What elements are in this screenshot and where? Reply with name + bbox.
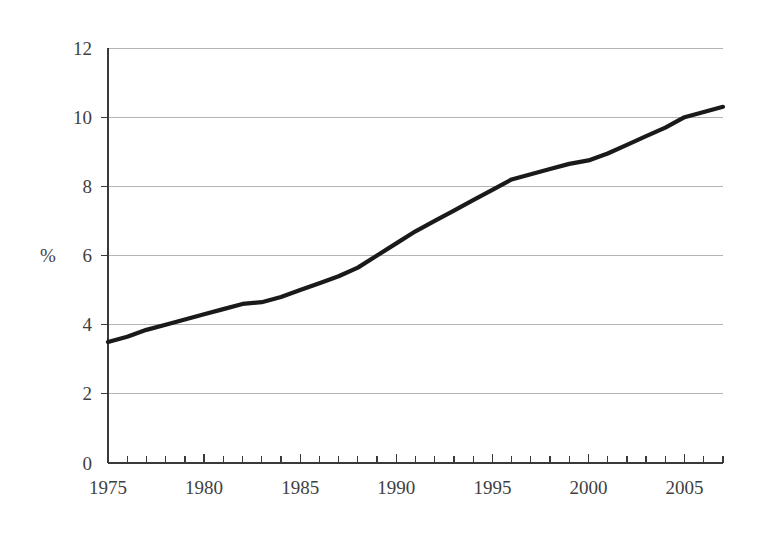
y-axis-unit-text: %: [40, 245, 56, 266]
x-tick-label-1985: 1985: [281, 477, 319, 498]
y-tick-label-2: 2: [83, 383, 93, 404]
data-series: [108, 107, 723, 342]
x-axis: [108, 454, 723, 463]
y-tick-label-0: 0: [83, 453, 93, 474]
line-chart: 024681012 1975198019851990199520002005 %: [0, 0, 766, 539]
x-tick-label-1995: 1995: [473, 477, 511, 498]
x-tick-label-1980: 1980: [185, 477, 223, 498]
x-tick-label-2005: 2005: [666, 477, 704, 498]
data-line-series-0: [108, 107, 723, 342]
x-tick-labels: 1975198019851990199520002005: [89, 477, 704, 498]
x-tick-label-2000: 2000: [569, 477, 607, 498]
y-tick-label-12: 12: [73, 38, 92, 59]
y-axis: [101, 48, 108, 463]
y-tick-labels: 024681012: [73, 38, 93, 474]
y-tick-label-8: 8: [83, 176, 93, 197]
y-tick-label-10: 10: [73, 107, 92, 128]
x-tick-label-1975: 1975: [89, 477, 127, 498]
y-axis-unit-label: %: [40, 245, 56, 266]
gridlines: [108, 48, 723, 394]
x-tick-label-1990: 1990: [377, 477, 415, 498]
y-tick-label-6: 6: [83, 245, 93, 266]
y-tick-label-4: 4: [83, 314, 93, 335]
chart-page: 024681012 1975198019851990199520002005 %: [0, 0, 766, 539]
